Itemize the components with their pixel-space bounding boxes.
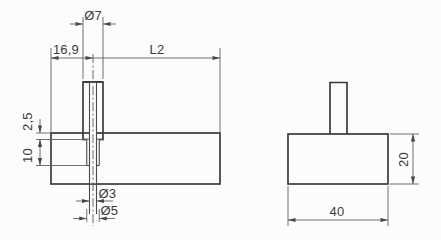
dim-label-counterbore-diameter: Ø5 (101, 203, 119, 218)
dimension-recess-depth: 2,5 (20, 112, 51, 133)
front-section-view: Ø7 16,9 L2 2,5 10 (20, 8, 220, 227)
dim-label-recess-depth: 2,5 (20, 112, 35, 131)
dim-label-block-width: 40 (330, 204, 345, 219)
dim-label-counterbore-depth: 10 (20, 148, 35, 163)
dim-label-length: L2 (150, 42, 165, 57)
block-section (51, 133, 220, 184)
dimension-block-width: 40 (288, 186, 388, 226)
two-view-part-drawing: Ø7 16,9 L2 2,5 10 (0, 0, 441, 240)
dimension-offset-and-length: 16,9 L2 (51, 42, 220, 133)
technical-drawing-canvas: Ø7 16,9 L2 2,5 10 (0, 0, 441, 240)
dimension-counterbore-depth: 10 (20, 140, 87, 166)
pin-outline (330, 83, 347, 135)
dim-label-block-height: 20 (396, 152, 411, 167)
block-outline (288, 134, 388, 184)
dim-label-pin-diameter: Ø7 (84, 8, 102, 23)
dim-label-through-hole-diameter: Ø3 (99, 186, 117, 201)
dim-label-pin-offset: 16,9 (53, 42, 79, 57)
dimension-counterbore-diameter: Ø5 (73, 203, 118, 223)
side-view: 20 40 (288, 83, 419, 227)
dimension-block-height: 20 (390, 134, 419, 184)
